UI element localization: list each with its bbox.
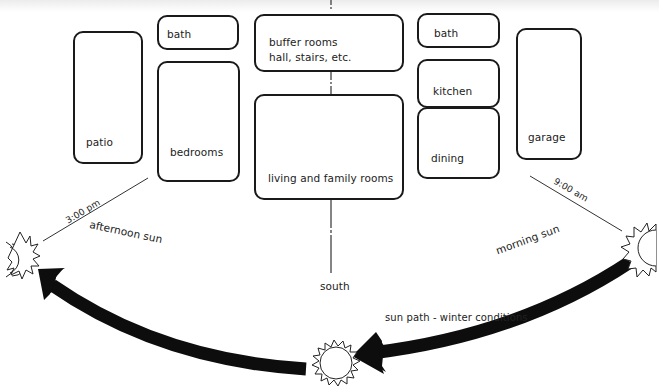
sun-path-arrow-left [52, 285, 306, 369]
sun-icon-noon [312, 340, 360, 386]
sun-icon-afternoon [6, 232, 40, 279]
sun-path-arrow-right [372, 262, 630, 353]
label-south: south [320, 280, 350, 292]
label-sun-path: sun path - winter conditions [385, 312, 528, 323]
diagram-graphics [0, 0, 659, 388]
morning-sightline [530, 176, 622, 231]
